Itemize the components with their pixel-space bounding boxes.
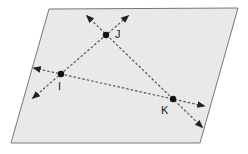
point-J [103,32,109,38]
point-label-I: I [58,80,61,92]
point-K [170,96,176,102]
point-label-K: K [161,104,169,116]
plane-parallelogram [11,8,238,143]
point-label-J: J [115,28,121,40]
point-I [58,71,64,77]
geometry-diagram: IJK [0,0,248,154]
